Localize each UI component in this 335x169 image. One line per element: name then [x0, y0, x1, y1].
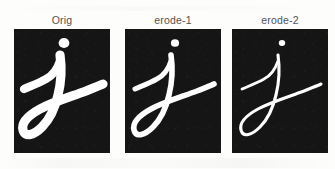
glyph-entry-stroke [242, 61, 278, 89]
panel-group: Orig erode-1 [0, 0, 335, 169]
glyph-entry-stroke [24, 61, 60, 89]
erosion-figure: Orig erode-1 [0, 0, 335, 169]
panel-orig: Orig [14, 29, 110, 153]
glyph-dot-icon [59, 38, 70, 48]
glyph-j-erode-2 [232, 29, 328, 153]
glyph-dot-icon [279, 40, 285, 46]
panel-erode-1: erode-1 [125, 29, 221, 153]
panel-erode-2: erode-2 [232, 29, 328, 153]
glyph-stem-stroke [134, 55, 214, 135]
panel-image-erode-1 [125, 29, 221, 153]
glyph-stem-stroke [23, 55, 103, 135]
glyph-dot-icon [171, 39, 179, 47]
panel-image-orig [14, 29, 110, 153]
panel-image-erode-2 [232, 29, 328, 153]
glyph-j-orig [14, 29, 110, 153]
panel-label-erode-2: erode-2 [232, 14, 328, 26]
glyph-entry-stroke [135, 61, 171, 89]
glyph-j-erode-1 [125, 29, 221, 153]
glyph-stem-stroke [241, 55, 321, 135]
panel-label-orig: Orig [14, 14, 110, 26]
panel-label-erode-1: erode-1 [125, 14, 221, 26]
